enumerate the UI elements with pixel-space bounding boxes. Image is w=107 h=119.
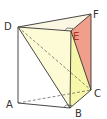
label-F: F bbox=[93, 9, 99, 20]
label-C: C bbox=[94, 88, 101, 99]
label-D: D bbox=[4, 21, 12, 32]
label-E: E bbox=[73, 31, 79, 42]
prism-figure: D F E A B C bbox=[0, 0, 107, 119]
label-B: B bbox=[75, 108, 82, 119]
label-A: A bbox=[6, 99, 13, 110]
prism-diagram: D F E A B C bbox=[0, 0, 107, 119]
